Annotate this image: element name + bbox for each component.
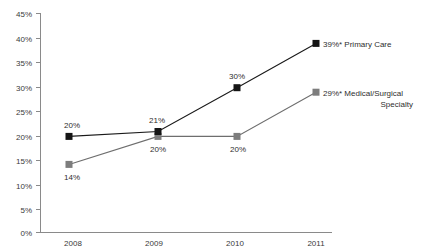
series-line-medical-surgical-specialty	[69, 92, 316, 164]
point-label-specialty-2009: 20%	[150, 145, 166, 154]
point-label-specialty-2008: 14%	[64, 173, 80, 182]
x-tick-label-2008: 2008	[64, 239, 82, 248]
marker-specialty-2008	[66, 161, 73, 168]
x-tick-label-2011: 2011	[307, 239, 325, 248]
marker-primary-2008	[66, 133, 73, 140]
y-tick-label-5: 5%	[20, 206, 32, 215]
y-tick-label-30: 30%	[16, 84, 32, 93]
y-tick-label-35: 35%	[16, 59, 32, 68]
x-tick-label-2009: 2009	[145, 239, 163, 248]
marker-specialty-2010	[234, 133, 241, 140]
series-end-label-medical-surgical-specialty-line2: Specialty	[381, 100, 413, 109]
marker-primary-2009	[155, 128, 162, 135]
y-tick-label-20: 20%	[16, 133, 32, 142]
point-label-primary-2010: 30%	[229, 72, 245, 81]
line-chart: 45% 40% 35% 30% 25% 20% 15% 10% 5% 0% 20…	[0, 0, 423, 251]
y-tick-label-0: 0%	[20, 229, 32, 238]
series-end-label-medical-surgical-specialty: 29%* Medical/Surgical	[323, 89, 403, 98]
y-tick-label-25: 25%	[16, 108, 32, 117]
x-tick-label-2010: 2010	[226, 239, 244, 248]
y-tick-label-15: 15%	[16, 157, 32, 166]
marker-specialty-2011	[313, 89, 320, 96]
point-label-primary-2008: 20%	[64, 121, 80, 130]
marker-primary-2011	[313, 40, 320, 47]
y-tick-label-45: 45%	[16, 10, 32, 19]
y-tick-label-10: 10%	[16, 182, 32, 191]
series-line-primary-care	[69, 43, 316, 136]
point-label-specialty-2010: 20%	[230, 145, 246, 154]
point-label-primary-2009: 21%	[149, 116, 165, 125]
marker-primary-2010	[234, 84, 241, 91]
series-end-label-primary-care: 39%* Primary Care	[323, 40, 392, 49]
y-tick-label-40: 40%	[16, 35, 32, 44]
